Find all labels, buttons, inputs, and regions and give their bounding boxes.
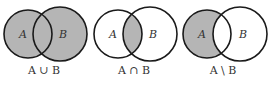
caption-intersection: A ∩ B [117,64,150,77]
set-a-label: A [108,28,117,41]
set-b-label: B [238,28,247,41]
venn-diagrams: A B A ∪ B A B A ∩ B A B A \ B [0,0,273,85]
venn-intersection: A B A ∩ B [94,7,177,77]
set-b-label: B [58,28,67,41]
venn-union: A B A ∪ B [4,7,87,77]
set-b-label: B [148,28,157,41]
caption-difference: A \ B [209,64,237,77]
set-a-label: A [197,28,206,41]
caption-union: A ∪ B [27,64,60,77]
venn-difference: A B A \ B [183,7,267,77]
set-a-label: A [18,28,27,41]
